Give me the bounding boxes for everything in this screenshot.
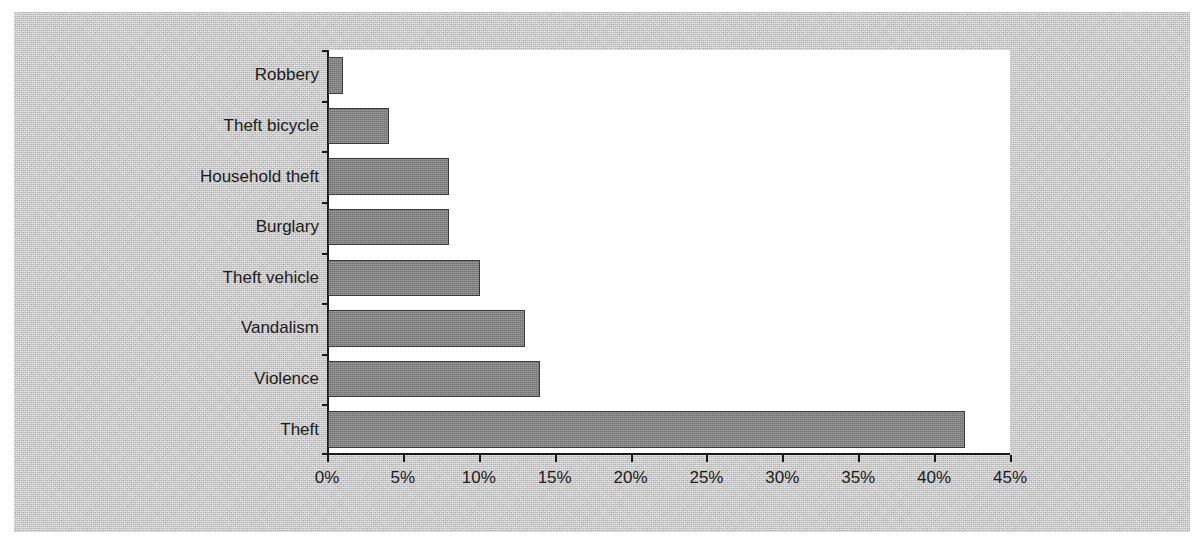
x-axis-tick-label: 45% — [993, 469, 1027, 486]
x-axis-tick — [403, 455, 405, 462]
x-axis-tick-label: 25% — [689, 469, 723, 486]
y-axis-labels: RobberyTheft bicycleHousehold theftBurgl… — [14, 50, 319, 455]
x-axis-tick-label: 5% — [391, 469, 416, 486]
plot-area — [327, 50, 1010, 455]
bar[interactable] — [328, 209, 449, 245]
x-axis-tick-labels: 0%5%10%15%20%25%30%35%40%45% — [327, 463, 1010, 503]
x-axis-tick — [782, 455, 784, 462]
bar[interactable] — [328, 57, 343, 93]
y-axis-label: Burglary — [14, 218, 319, 235]
y-axis-label: Household theft — [14, 168, 319, 185]
bar[interactable] — [328, 361, 540, 397]
bar[interactable] — [328, 260, 480, 296]
y-axis-tick — [322, 202, 329, 204]
y-axis-label: Robbery — [14, 66, 319, 83]
y-axis-tick — [322, 253, 329, 255]
y-axis-label: Theft bicycle — [14, 117, 319, 134]
x-axis-tick — [706, 455, 708, 462]
bar[interactable] — [328, 411, 965, 447]
x-axis-tick-label: 20% — [614, 469, 648, 486]
chart-figure: RobberyTheft bicycleHousehold theftBurgl… — [14, 12, 1190, 532]
x-axis-tick-label: 0% — [315, 469, 340, 486]
y-axis-label: Theft — [14, 421, 319, 438]
y-axis-label: Vandalism — [14, 319, 319, 336]
bar[interactable] — [328, 310, 525, 346]
x-axis-tick — [479, 455, 481, 462]
y-axis-tick — [322, 303, 329, 305]
y-axis-tick — [322, 50, 329, 52]
x-axis-tick-label: 40% — [917, 469, 951, 486]
x-axis-tick — [555, 455, 557, 462]
x-axis-tick-label: 30% — [765, 469, 799, 486]
x-axis-tick-label: 35% — [841, 469, 875, 486]
x-axis-tick — [327, 455, 329, 462]
x-axis-line — [327, 453, 1010, 455]
x-axis-tick — [858, 455, 860, 462]
x-axis-tick — [631, 455, 633, 462]
x-axis-tick-label: 15% — [538, 469, 572, 486]
x-axis-tick-label: 10% — [462, 469, 496, 486]
bar[interactable] — [328, 108, 389, 144]
y-axis-tick — [322, 404, 329, 406]
bar[interactable] — [328, 158, 449, 194]
x-axis-tick — [934, 455, 936, 462]
x-axis-tick — [1010, 455, 1012, 462]
y-axis-tick — [322, 151, 329, 153]
y-axis-tick — [322, 101, 329, 103]
y-axis-label: Theft vehicle — [14, 269, 319, 286]
y-axis-tick — [322, 354, 329, 356]
y-axis-label: Violence — [14, 370, 319, 387]
